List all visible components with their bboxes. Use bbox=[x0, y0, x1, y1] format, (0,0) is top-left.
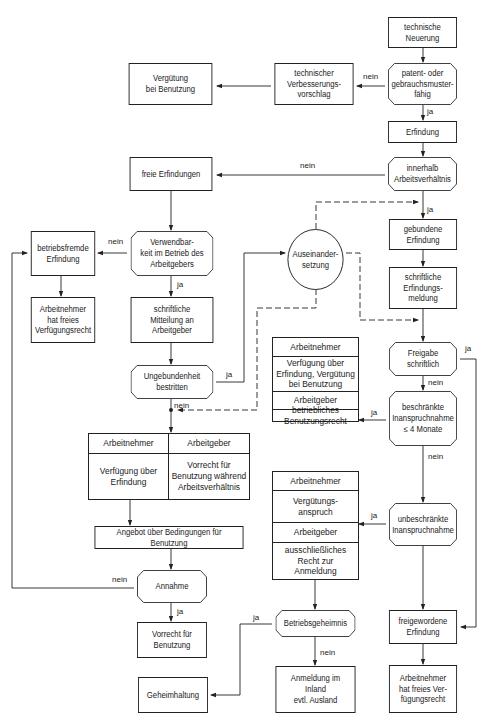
node-label: technische Neuerung bbox=[404, 22, 441, 44]
node-freigewordene-erfindung: freigewordene Erfindung bbox=[389, 610, 457, 644]
node-angebot: Angebot über Bedingungen für Benutzung bbox=[94, 526, 243, 549]
node-label: Vorrecht für Benutzung bbox=[152, 629, 192, 651]
cell-arbeitnehmer-body: Verfügung über Erfindung bbox=[89, 454, 168, 499]
decision-ungebundenheit-bestritten: Ungebundenheit bestritten bbox=[131, 365, 214, 399]
edge-label-nein-ungebundenheit: nein bbox=[174, 401, 189, 410]
edge-label-nein-beschraenkte: nein bbox=[428, 452, 443, 461]
edge-label-ja-unbeschraenkte: ja bbox=[371, 511, 377, 520]
node-vorrecht-fuer-benutzung: Vorrecht für Benutzung bbox=[137, 622, 207, 658]
node-label: Arbeitnehmer hat freies Ver- fügungsrech… bbox=[399, 673, 447, 706]
node-gebundene-erfindung: gebundene Erfindung bbox=[389, 219, 457, 250]
cell-arbeitnehmer-head: Arbeitnehmer bbox=[273, 472, 358, 491]
edge-label-ja-beschraenkte: ja bbox=[371, 408, 377, 417]
rights-box-ungebunden: Arbeitnehmer Verfügung über Erfindung Ar… bbox=[88, 433, 250, 500]
node-label: Arbeitnehmer hat freies Verfügungsrecht bbox=[35, 304, 91, 337]
node-auseinandersetzung: Auseinander- setzung bbox=[287, 229, 343, 290]
edge-label-ja-verwendbarkeit: ja bbox=[177, 280, 183, 289]
node-anmeldung-inland: Anmeldung im Inland evtl. Ausland bbox=[275, 666, 355, 713]
node-label: freigewordene Erfindung bbox=[399, 616, 448, 638]
column-arbeitgeber: Arbeitgeber Vorrecht für Benutzung währe… bbox=[169, 434, 249, 499]
node-arbeitnehmer-freies-verfuegungsrecht-left: Arbeitnehmer hat freies Verfügungsrecht bbox=[31, 297, 95, 343]
node-label: freie Erfindungen bbox=[142, 169, 201, 180]
decision-verwendbarkeit: Verwendbar- keit im Betrieb des Arbeitge… bbox=[131, 231, 214, 276]
cell-arbeitnehmer-body: Vergütungs- anspruch bbox=[273, 491, 358, 523]
decision-beschraenkte-inanspruchnahme: beschränkte Inanspruchnahme ≤ 4 Monate bbox=[389, 391, 457, 446]
node-label: Anmeldung im Inland evtl. Ausland bbox=[291, 673, 340, 706]
node-label: Annahme bbox=[155, 581, 188, 592]
decision-betriebsgeheimnis: Betriebsgeheimnis bbox=[275, 610, 355, 637]
node-label: Erfindung bbox=[406, 127, 439, 138]
cell-arbeitgeber-head: Arbeitgeber bbox=[169, 434, 249, 454]
node-verguetung-bei-benutzung: Vergütung bei Benutzung bbox=[129, 63, 213, 105]
edge-label-ja-patent: ja bbox=[427, 107, 433, 116]
cell-arbeitnehmer-head: Arbeitnehmer bbox=[89, 434, 168, 454]
node-geheimhaltung: Geheimhaltung bbox=[138, 677, 208, 713]
node-arbeitnehmer-freies-verfuegungsrecht-right: Arbeitnehmer hat freies Ver- fügungsrech… bbox=[389, 665, 457, 713]
edge-label-nein-patent: nein bbox=[363, 72, 378, 81]
edge-label-ja-freigabe: ja bbox=[465, 344, 471, 353]
node-label: schriftliche Mitteilung an Arbeitgeber bbox=[150, 304, 194, 337]
edge-label-nein-innerhalb: nein bbox=[300, 161, 315, 170]
node-label: Freigabe schriftlich bbox=[407, 348, 439, 370]
edge-label-ja-annahme: ja bbox=[177, 607, 183, 616]
edge-label-ja-betriebsgeheimnis: ja bbox=[253, 613, 259, 622]
node-label: Betriebsgeheimnis bbox=[284, 618, 347, 629]
junction-dot bbox=[169, 408, 173, 412]
node-label: schriftliche Erfindungs- meldung bbox=[403, 272, 442, 305]
cell-arbeitnehmer-head: Arbeitnehmer bbox=[273, 338, 358, 357]
node-label: Geheimhaltung bbox=[147, 690, 199, 701]
cell-arbeitgeber-body: betriebliches Benutzungsrecht bbox=[273, 410, 358, 421]
flowchart-arbeitnehmererfindung: technische Neuerung patent- oder gebrauc… bbox=[0, 0, 486, 720]
node-betriebsfremde-erfindung: betriebsfremde Erfindung bbox=[31, 231, 95, 276]
edge-label-ja-innerhalb: ja bbox=[427, 205, 433, 214]
cell-arbeitgeber-body: Vorrecht für Benutzung während Arbeitsve… bbox=[169, 454, 249, 499]
column-arbeitnehmer: Arbeitnehmer Verfügung über Erfindung bbox=[89, 434, 169, 499]
cell-arbeitnehmer-body: Verfügung über Erfindung, Vergütung bei … bbox=[273, 357, 358, 392]
cell-arbeitgeber-head: Arbeitgeber bbox=[273, 523, 358, 543]
node-label: Angebot über Bedingungen für Benutzung bbox=[97, 527, 241, 549]
node-label: Auseinander- setzung bbox=[293, 249, 339, 271]
node-freie-erfindungen: freie Erfindungen bbox=[130, 157, 213, 191]
node-label: beschränkte Inanspruchnahme ≤ 4 Monate bbox=[392, 402, 454, 435]
node-schriftliche-mitteilung: schriftliche Mitteilung an Arbeitgeber bbox=[131, 297, 214, 343]
decision-freigabe-schriftlich: Freigabe schriftlich bbox=[389, 342, 457, 376]
node-label: Ungebundenheit bestritten bbox=[144, 371, 201, 393]
node-label: gebundene Erfindung bbox=[404, 224, 443, 246]
cell-arbeitgeber-body: ausschließliches Recht zur Anmeldung bbox=[273, 543, 358, 579]
decision-patentfaehig: patent- oder gebrauchsmuster- fähig bbox=[388, 63, 457, 105]
node-erfindungsmeldung: schriftliche Erfindungs- meldung bbox=[389, 267, 457, 309]
edge-label-nein-freigabe: nein bbox=[428, 378, 443, 387]
edge-label-ja-ungebundenheit: ja bbox=[226, 370, 232, 379]
edge-label-nein-annahme: nein bbox=[112, 575, 127, 584]
decision-unbeschraenkte-inanspruchnahme: unbeschränkte Inanspruchnahme bbox=[389, 503, 457, 546]
node-label: betriebsfremde Erfindung bbox=[37, 243, 88, 265]
decision-innerhalb-arbeitsverhaeltnis: innerhalb Arbeitsverhältnis bbox=[388, 157, 457, 191]
node-erfindung: Erfindung bbox=[388, 121, 457, 143]
node-technische-neuerung: technische Neuerung bbox=[388, 17, 457, 48]
node-label: patent- oder gebrauchsmuster- fähig bbox=[391, 68, 453, 101]
edge-label-nein-betriebsgeheimnis: nein bbox=[320, 648, 335, 657]
node-label: technischer Verbesserungs- vorschlag bbox=[287, 68, 341, 101]
node-verbesserungsvorschlag: technischer Verbesserungs- vorschlag bbox=[274, 63, 353, 105]
node-label: Vergütung bei Benutzung bbox=[146, 73, 195, 95]
edge-label-nein-verwendbarkeit: nein bbox=[108, 237, 123, 246]
rights-box-unbeschraenkte: Arbeitnehmer Vergütungs- anspruch Arbeit… bbox=[272, 471, 359, 580]
rights-box-beschraenkte: Arbeitnehmer Verfügung über Erfindung, V… bbox=[272, 337, 359, 422]
decision-annahme: Annahme bbox=[137, 570, 207, 603]
node-label: unbeschränkte Inanspruchnahme bbox=[392, 514, 454, 536]
node-label: innerhalb Arbeitsverhältnis bbox=[394, 163, 451, 185]
node-label: Verwendbar- keit im Betrieb des Arbeitge… bbox=[140, 237, 203, 270]
